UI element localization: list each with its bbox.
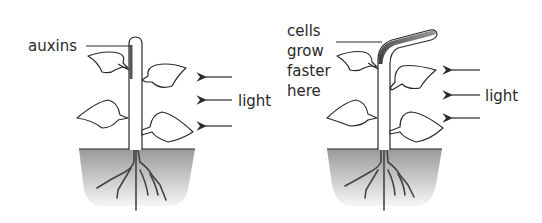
light-arrows-left (206, 77, 232, 126)
label-light-left: light (238, 92, 271, 110)
leaf-lower-right (390, 112, 443, 142)
soil-pot (79, 149, 195, 206)
leaf-upper-right (390, 66, 436, 91)
leaf-upper-left (88, 52, 128, 73)
phototropism-diagram: auxins light (0, 0, 542, 223)
label-light-right: light (485, 87, 518, 105)
svg-text:here: here (287, 82, 321, 100)
label-auxins: auxins (28, 37, 77, 55)
leaf-upper-left (337, 52, 377, 71)
svg-text:grow: grow (287, 42, 324, 60)
plant-before-panel: auxins light (28, 37, 271, 210)
light-arrows-right (452, 70, 480, 118)
leaf-upper-right (142, 64, 186, 87)
leaf-lower-left (327, 100, 377, 126)
auxin-region (130, 45, 133, 79)
svg-text:cells: cells (287, 22, 321, 40)
plant-after-panel: cells grow faster here light (287, 22, 518, 210)
leaf-lower-right (142, 112, 193, 142)
svg-text:faster: faster (287, 62, 331, 80)
leaf-lower-left (77, 100, 128, 128)
label-cells-grow-faster: cells grow faster here (287, 22, 331, 100)
